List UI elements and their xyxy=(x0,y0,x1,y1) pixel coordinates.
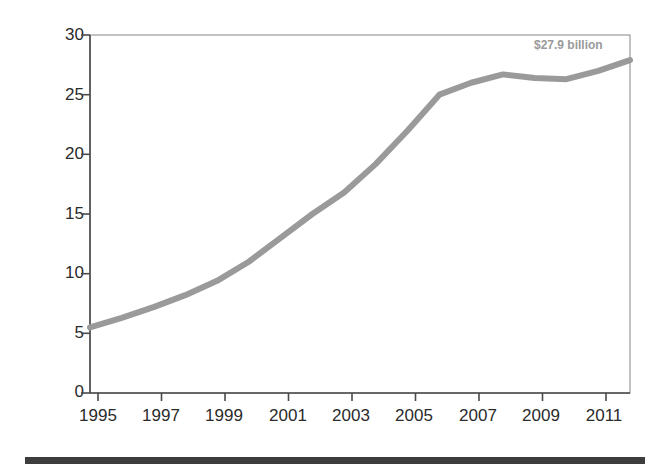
bottom-rule-bar xyxy=(25,457,645,464)
x-axis-ticks xyxy=(98,393,606,401)
revenue-line-chart-figure: Revenue in Billions 30 25 20 15 10 5 0 1… xyxy=(0,0,665,473)
revenue-data-line xyxy=(90,60,630,327)
plot-area xyxy=(0,0,665,473)
plot-border xyxy=(90,35,630,393)
y-axis-ticks xyxy=(81,35,90,393)
